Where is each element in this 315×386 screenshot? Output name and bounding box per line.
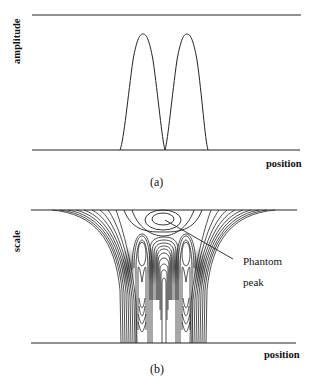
panel-a-x-axis-label: position	[266, 158, 302, 169]
panel-a-caption: (a)	[150, 175, 163, 190]
panel-b-caption: (b)	[150, 362, 164, 377]
figure	[0, 0, 315, 386]
lobe-contours	[132, 234, 196, 343]
phantom-peak-contours	[124, 210, 202, 236]
panel-b-x-axis-label: position	[264, 349, 300, 360]
phantom-peak-annotation: Phantom peak	[243, 251, 282, 293]
panel-a-signal-curve	[120, 34, 208, 150]
annotation-line-2: peak	[243, 272, 282, 293]
center-arch-contours	[150, 237, 178, 343]
annotation-line-1: Phantom	[243, 251, 282, 272]
panel-a-y-axis-label: amplitude	[11, 18, 22, 64]
panel-b-y-axis-label: scale	[11, 230, 22, 252]
panel-a-plot	[32, 15, 301, 150]
